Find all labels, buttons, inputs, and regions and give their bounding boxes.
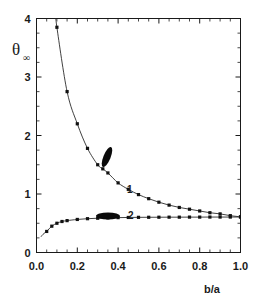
- data-point-marker: [66, 219, 69, 222]
- data-point-marker: [178, 206, 181, 209]
- data-point-marker: [188, 208, 191, 211]
- y-axis-subscript: ∞: [23, 52, 30, 63]
- data-point-marker: [198, 216, 201, 219]
- curve-label-1: 1: [127, 184, 133, 195]
- curve-path-1: [54, 0, 240, 217]
- data-point-marker: [219, 212, 222, 215]
- data-point-marker: [168, 204, 171, 207]
- data-point-marker: [239, 215, 242, 218]
- data-point-marker: [106, 171, 109, 174]
- data-point-marker: [45, 230, 48, 233]
- data-point-marker: [86, 147, 89, 150]
- chart-figure: 0.00.20.40.60.81.0 01234 1 2 b/a θ ∞: [0, 0, 263, 307]
- data-point-marker: [229, 215, 232, 218]
- data-point-marker: [137, 193, 140, 196]
- y-tick-label: 2: [24, 130, 30, 142]
- data-point-marker: [178, 216, 181, 219]
- data-point-marker: [66, 90, 69, 93]
- data-point-marker: [96, 163, 99, 166]
- y-tick-label: 0: [24, 247, 30, 259]
- y-tick-label: 3: [24, 71, 30, 83]
- y-tick-labels: 01234: [24, 13, 31, 259]
- data-point-marker: [219, 215, 222, 218]
- curve-path-2: [41, 217, 241, 237]
- x-tick-label: 0.0: [29, 260, 44, 272]
- inset-oblate-ellipse-icon: [96, 212, 120, 219]
- data-point-marker: [147, 197, 150, 200]
- data-point-marker: [208, 215, 211, 218]
- data-point-marker: [117, 181, 120, 184]
- data-point-marker: [157, 216, 160, 219]
- data-point-marker: [208, 211, 211, 214]
- data-point-marker: [76, 218, 79, 221]
- x-axis-title: b/a: [204, 283, 221, 295]
- y-tick-label: 4: [24, 13, 31, 25]
- data-point-marker: [55, 222, 58, 225]
- x-tick-label: 0.6: [151, 260, 166, 272]
- y-tick-label: 1: [24, 188, 30, 200]
- data-point-marker: [86, 217, 89, 220]
- data-point-marker: [50, 225, 53, 228]
- x-tick-label: 0.8: [192, 260, 207, 272]
- y-axis-symbol: θ: [12, 40, 20, 59]
- inset-prolate-ellipse-icon: [100, 146, 115, 169]
- data-point-marker: [157, 201, 160, 204]
- plot-area: 0.00.20.40.60.81.0 01234 1 2 b/a θ ∞: [0, 0, 263, 307]
- data-point-marker: [147, 216, 150, 219]
- data-point-marker: [76, 122, 79, 125]
- data-point-marker: [60, 220, 63, 223]
- data-point-marker: [168, 216, 171, 219]
- x-tick-label: 0.4: [110, 260, 126, 272]
- x-tick-labels: 0.00.20.40.60.81.0: [29, 260, 248, 272]
- data-markers: [45, 26, 242, 233]
- curve-label-2: 2: [128, 210, 134, 221]
- data-point-marker: [55, 26, 58, 29]
- x-tick-label: 1.0: [233, 260, 248, 272]
- data-point-marker: [101, 167, 104, 170]
- data-point-marker: [137, 216, 140, 219]
- data-point-marker: [188, 216, 191, 219]
- x-tick-label: 0.2: [70, 260, 85, 272]
- data-point-marker: [198, 209, 201, 212]
- data-curves: [41, 0, 241, 237]
